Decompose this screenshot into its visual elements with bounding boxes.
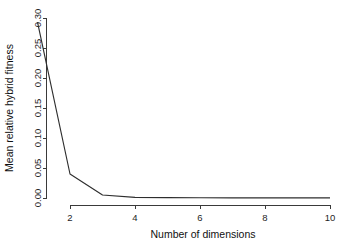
y-axis-tick-label: 0.00	[32, 189, 43, 208]
x-axis-title: Number of dimensions	[150, 228, 255, 240]
y-axis-tick-label: 0.15	[32, 99, 43, 118]
plot-background	[0, 0, 338, 244]
x-axis-tick-label: 10	[325, 212, 336, 223]
y-axis-tick-label: 0.05	[32, 159, 43, 178]
x-axis-tick-label: 6	[197, 212, 202, 223]
y-axis-title: Mean relative hybrid fitness	[3, 44, 15, 172]
line-chart-plot: 0.000.050.100.150.200.250.30 246810 Numb…	[0, 0, 338, 244]
chart-figure: 0.000.050.100.150.200.250.30 246810 Numb…	[0, 0, 338, 244]
x-axis-tick-label: 2	[67, 212, 72, 223]
x-axis-tick-label: 8	[262, 212, 267, 223]
x-axis-tick-label: 4	[132, 212, 137, 223]
y-axis-tick-label: 0.20	[32, 69, 43, 88]
y-axis-tick-label: 0.10	[32, 129, 43, 148]
